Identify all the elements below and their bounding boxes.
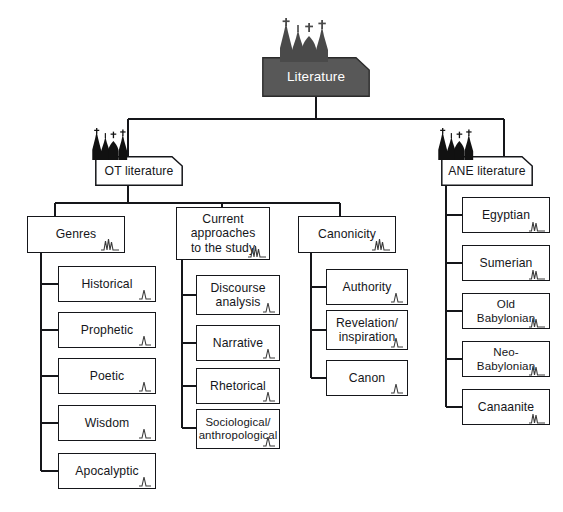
node-genres[interactable]: Genres [27,216,125,253]
node-label: Historical [76,277,137,291]
node-canaanite[interactable]: Canaanite [462,389,550,425]
node-old-babylonian[interactable]: Old Babylonian [462,293,550,329]
node-label: Egyptian [477,208,535,222]
node-label: Authority [338,280,397,294]
node-label: ANE literature [441,164,533,178]
node-label: OT literature [95,164,183,178]
node-sociological-anthropological[interactable]: Sociological/ anthropological [196,409,280,449]
node-label: Canonicity [313,227,381,241]
node-label: Genres [51,227,102,241]
node-label: Rhetorical [205,379,271,393]
node-label: Wisdom [80,416,135,430]
node-label: Poetic [85,369,129,383]
node-label: Old Babylonian [463,297,549,324]
node-label: Sumerian [475,256,538,270]
node-label: Revelation/ inspiration [331,316,403,345]
cathedral-silhouette-icon [272,18,334,62]
node-canonicity[interactable]: Canonicity [298,216,396,253]
node-poetic[interactable]: Poetic [58,358,156,394]
node-label: Neo-Babylonian [463,345,549,372]
diagram-canvas: Literature OT literature [0,0,563,512]
node-narrative[interactable]: Narrative [196,325,280,361]
node-label: Current approaches to the study [186,212,261,255]
node-label: Canon [344,371,390,385]
node-label: Canaanite [473,400,539,414]
node-rhetorical[interactable]: Rhetorical [196,368,280,404]
node-ane-literature[interactable]: ANE literature [441,156,533,186]
node-label: Sociological/ anthropological [194,416,283,443]
node-sumerian[interactable]: Sumerian [462,245,550,281]
node-prophetic[interactable]: Prophetic [58,312,156,348]
node-ot-literature[interactable]: OT literature [95,156,183,186]
node-discourse-analysis[interactable]: Discourse analysis [196,275,280,315]
node-label: Prophetic [76,323,138,337]
node-canon[interactable]: Canon [326,360,408,396]
node-authority[interactable]: Authority [326,269,408,305]
node-apocalyptic[interactable]: Apocalyptic [58,453,156,489]
node-egyptian[interactable]: Egyptian [462,197,550,233]
node-neo-babylonian[interactable]: Neo-Babylonian [462,341,550,377]
node-historical[interactable]: Historical [58,266,156,302]
node-label: Apocalyptic [70,464,143,478]
node-label: Discourse analysis [205,281,270,310]
node-label: Narrative [208,336,268,350]
node-current-approaches[interactable]: Current approaches to the study [176,207,270,260]
node-wisdom[interactable]: Wisdom [58,405,156,441]
node-revelation-inspiration[interactable]: Revelation/ inspiration [326,310,408,350]
node-root-literature[interactable]: Literature [262,57,370,97]
node-label: Literature [262,69,370,85]
